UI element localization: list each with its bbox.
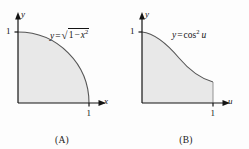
radicand-a-exponent: 2: [85, 28, 88, 35]
x-axis-label-a: x: [104, 97, 108, 106]
equation-b-function: cos: [184, 30, 197, 40]
radical-group-a: √1−x2: [62, 28, 90, 41]
panel-a-plot: [0, 0, 124, 149]
shaded-region-b: [142, 32, 213, 103]
equation-b-exponent: 2: [196, 28, 199, 35]
radicand-a-minus: −: [73, 30, 80, 40]
equation-label-b: y=cos2u: [172, 29, 206, 41]
shaded-region-a: [18, 32, 89, 103]
figure-root: x y 1 1 y=√1−x2 (A) u y: [0, 0, 249, 149]
y-tick-label-a: 1: [6, 27, 11, 36]
equation-b-equals: =: [176, 30, 183, 40]
panel-a-caption: (A): [0, 135, 124, 145]
x-tick-label-a: 1: [87, 109, 92, 118]
panel-b-plot: [124, 0, 248, 149]
figure-panel-b: u y 1 1 y=cos2u (B): [124, 0, 248, 149]
equation-label-a: y=√1−x2: [50, 28, 89, 41]
x-axis-label-b: u: [228, 97, 233, 106]
x-tick-label-b: 1: [211, 109, 216, 118]
radicand-a: 1−x2: [68, 28, 90, 41]
figure-panel-a: x y 1 1 y=√1−x2 (A): [0, 0, 124, 149]
equation-b-argument: u: [200, 30, 207, 40]
y-axis-label-b: y: [145, 10, 149, 19]
panel-b-caption: (B): [124, 135, 248, 145]
equation-a-equals: =: [54, 31, 61, 41]
y-tick-label-b: 1: [130, 27, 135, 36]
y-axis-label-a: y: [21, 10, 25, 19]
